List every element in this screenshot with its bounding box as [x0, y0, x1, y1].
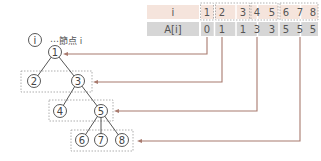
- tree-node-2: 2: [28, 75, 41, 88]
- value-cell: 3: [269, 24, 275, 35]
- value-cell: 3: [254, 24, 260, 35]
- index-cell: 7: [297, 7, 303, 18]
- arrow-to-level-4: [140, 37, 300, 141]
- array-table: i A[i] 1 2 3 4 5 6 7 8 0 1 1 3 3 5: [147, 3, 318, 36]
- svg-text:3: 3: [75, 76, 81, 87]
- value-cell: 5: [283, 24, 289, 35]
- tree-edges: [34, 52, 122, 140]
- tree-node-5: 5: [95, 105, 108, 118]
- arrow-to-node-1: [66, 37, 207, 54]
- arrow-to-level-3: [117, 37, 257, 111]
- index-cell: 3: [240, 7, 246, 18]
- row-label-a: A[i]: [164, 24, 182, 35]
- index-cell: 1: [204, 7, 210, 18]
- svg-text:4: 4: [57, 106, 63, 117]
- arrowhead-icon: [63, 52, 68, 56]
- value-cell: 5: [310, 24, 316, 35]
- legend-label: ⋯節点 i: [50, 35, 82, 46]
- index-cell: 6: [283, 7, 289, 18]
- value-cell: 0: [204, 24, 210, 35]
- tree-node-3: 3: [72, 75, 85, 88]
- arrowheads: [63, 52, 142, 143]
- row-label-i: i: [172, 7, 175, 18]
- svg-text:5: 5: [98, 106, 104, 117]
- tree-node-7: 7: [95, 134, 108, 147]
- value-cells: 0 1 1 3 3 5 5 5: [204, 24, 316, 35]
- index-cells: 1 2 3 4 5 6 7 8: [204, 7, 316, 18]
- tree-node-8: 8: [116, 134, 129, 147]
- arrowhead-icon: [93, 80, 98, 84]
- arrow-to-level-2: [96, 37, 222, 82]
- arrowhead-icon: [114, 109, 119, 113]
- arrowhead-icon: [137, 139, 142, 143]
- svg-text:7: 7: [98, 135, 104, 146]
- svg-text:6: 6: [79, 135, 85, 146]
- svg-text:2: 2: [31, 76, 37, 87]
- value-cell: 1: [240, 24, 246, 35]
- index-cell: 8: [310, 7, 316, 18]
- index-cell: 4: [254, 7, 260, 18]
- tree-node-6: 6: [76, 134, 89, 147]
- index-cell: 5: [269, 7, 275, 18]
- tree-node-1: 1: [49, 46, 62, 59]
- svg-text:8: 8: [119, 135, 125, 146]
- svg-text:1: 1: [52, 47, 58, 58]
- legend-symbol: i: [34, 35, 37, 46]
- value-cell: 5: [297, 24, 303, 35]
- legend: i ⋯節点 i: [29, 34, 83, 47]
- tree-node-4: 4: [54, 105, 67, 118]
- tree-nodes: 1 2 3 4 5 6 7 8: [28, 46, 129, 147]
- parent-array-diagram: i A[i] 1 2 3 4 5 6 7 8 0 1 1 3 3 5: [0, 0, 321, 161]
- index-cell: 2: [219, 7, 225, 18]
- value-cell: 1: [219, 24, 225, 35]
